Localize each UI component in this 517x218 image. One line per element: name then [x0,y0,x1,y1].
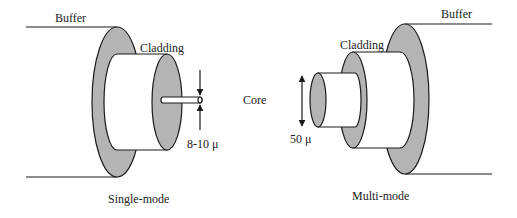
single-buffer-label: Buffer [55,11,86,25]
single-mode-caption: Single-mode [108,192,169,206]
multi-core-face [310,73,326,127]
multi-mode-fiber [302,24,492,174]
single-core-tip [198,97,202,103]
multi-mode-caption: Multi-mode [352,189,409,203]
single-core-dimension: 8-10 μ [187,137,218,151]
fiber-diagram: Buffer Cladding 8-10 μ Single-mode Core … [0,0,517,218]
core-label: Core [243,93,266,107]
single-cladding-label: Cladding [140,41,184,55]
multi-core-dimension: 50 μ [290,132,311,146]
single-core [161,97,202,103]
multi-buffer-label: Buffer [441,7,472,21]
multi-cladding-label: Cladding [340,38,384,52]
